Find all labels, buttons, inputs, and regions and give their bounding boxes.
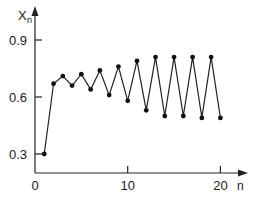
x-ticks: 01020	[31, 166, 227, 193]
y-tick-label: 0.6	[9, 90, 27, 105]
x-tick-label: 0	[31, 178, 38, 193]
data-point	[51, 81, 56, 86]
x-tick-label: 10	[120, 178, 134, 193]
x-tick-label: 20	[213, 178, 227, 193]
y-axis-label-subscript: n	[27, 15, 32, 25]
data-point	[172, 55, 177, 60]
axes	[35, 14, 240, 173]
data-point	[42, 152, 47, 157]
y-axis-arrow-icon	[32, 6, 39, 16]
data-point	[135, 59, 140, 64]
data-point	[79, 72, 84, 77]
data-point	[107, 93, 112, 98]
y-ticks: 0.30.60.9	[9, 33, 42, 162]
data-point	[199, 116, 204, 121]
data-point	[97, 68, 102, 73]
series-line	[44, 57, 220, 154]
y-axis-label: X	[18, 8, 27, 23]
data-point	[70, 83, 75, 88]
series-markers	[42, 55, 223, 157]
data-point	[190, 55, 195, 60]
data-point	[116, 64, 121, 69]
y-tick-label: 0.3	[9, 147, 27, 162]
data-point	[181, 114, 186, 119]
y-tick-label: 0.9	[9, 33, 27, 48]
chart: 0.30.60.9 01020 X n n	[0, 0, 259, 199]
data-point	[88, 87, 93, 92]
data-point	[125, 98, 130, 103]
data-point	[218, 116, 223, 121]
data-point	[209, 55, 214, 60]
data-point	[144, 108, 149, 113]
x-axis-arrow-icon	[238, 170, 248, 177]
data-point	[162, 114, 167, 119]
x-axis-label: n	[237, 179, 244, 193]
data-point	[153, 55, 158, 60]
data-point	[60, 74, 65, 79]
